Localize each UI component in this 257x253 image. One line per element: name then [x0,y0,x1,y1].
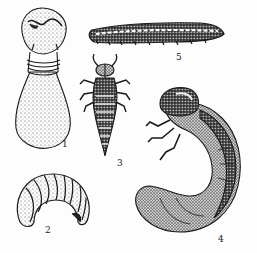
specimen-label-1: 1 [62,140,68,149]
illustration-canvas [0,0,257,253]
specimen-label-2: 2 [45,226,51,235]
specimen-3-larva [80,54,130,156]
insect-larvae-figure: 1 2 3 4 5 [0,0,257,253]
specimen-label-4: 4 [218,235,224,244]
specimen-1-pupa [16,8,71,148]
specimen-label-5: 5 [176,53,182,62]
specimen-5-larva [89,23,224,45]
specimen-2-grub [17,174,89,227]
specimen-4-grub [136,88,241,232]
specimen-label-3: 3 [117,159,123,168]
